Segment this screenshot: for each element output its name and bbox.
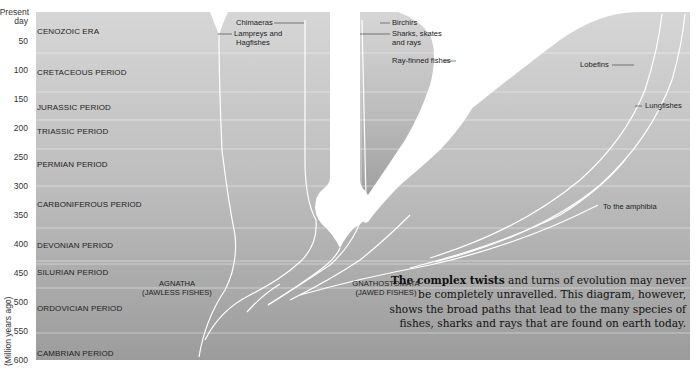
axis-tick-label: 550 [14,326,28,336]
period-label: CRETACEOUS PERIOD [37,68,127,77]
label-agnatha: AGNATHA [159,279,196,288]
axis-tick-label: 400 [14,239,28,249]
axis-tick-label: 50 [19,36,29,46]
axis-tick-label: 300 [14,181,28,191]
period-label: PERMIAN PERIOD [37,160,108,169]
label-jawless: (JAWLESS FISHES) [142,288,212,297]
axis-tick-label: 350 [14,210,28,220]
label-ray-finned: Ray-finned fishes [392,56,451,65]
period-label: CARBONIFEROUS PERIOD [37,200,142,209]
period-label: SILURIAN PERIOD [37,268,108,277]
label-lobefins: Lobefins [580,60,609,69]
period-label: ORDOVICIAN PERIOD [37,304,122,313]
label-hagfishes: Hagfishes [236,38,270,47]
caption-bold: The complex twists [391,274,505,286]
label-chimaeras: Chimaeras [236,18,273,27]
period-label: DEVONIAN PERIOD [37,241,113,250]
label-lungfishes: Lungfishes [645,101,682,110]
period-label: TRIASSIC PERIOD [37,127,108,136]
axis-day: day [14,16,28,26]
label-amphibia: To the amphibia [603,202,657,211]
axis-ticks: 50100150200250300350400450500550600 [14,36,28,365]
period-label: JURASSIC PERIOD [37,103,111,112]
period-label: CAMBRIAN PERIOD [37,349,114,358]
label-lampreys: Lampreys and [234,29,282,38]
label-and-rays: and rays [392,38,421,47]
axis-tick-label: 100 [14,65,28,75]
axis-tick-label: 450 [14,268,28,278]
axis-tick-label: 200 [14,123,28,133]
label-sharks: Sharks, skates [392,29,442,38]
axis-tick-label: 500 [14,297,28,307]
axis-tick-label: 600 [14,355,28,365]
label-birchirs: Birchirs [392,18,418,27]
caption: The complex twists and turns of evolutio… [386,273,686,331]
axis-tick-label: 150 [14,94,28,104]
axis-tick-label: 250 [14,152,28,162]
axis-title: (Million years ago) [3,296,13,366]
period-label: CENOZOIC ERA [37,27,100,36]
